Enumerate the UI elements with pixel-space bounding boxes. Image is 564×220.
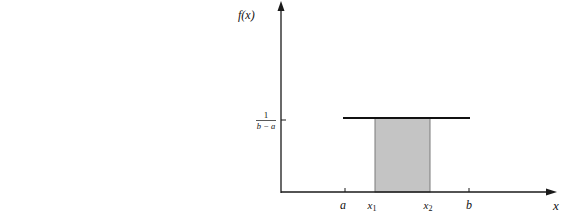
tick-label-b: b (466, 198, 472, 212)
tick-label-x1: x1 (367, 199, 377, 213)
y-axis-label: f(x) (238, 8, 255, 22)
tick-label-x2: x2 (423, 199, 433, 213)
y-axis-arrow-icon (278, 1, 285, 11)
x-axis-label: x (552, 198, 559, 213)
density-label-numerator: 1 (264, 110, 269, 120)
uniform-pdf-diagram: f(x) x 1 b − a a x1 x2 b (0, 0, 564, 220)
shaded-probability-region (375, 118, 430, 192)
x-axis-arrow-icon (546, 189, 557, 196)
tick-label-a: a (340, 198, 346, 212)
density-label-denominator: b − a (257, 121, 276, 131)
